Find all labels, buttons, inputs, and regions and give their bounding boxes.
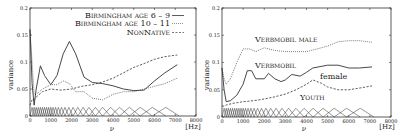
right-xlabel: ν <box>302 125 307 133</box>
y-tick-label: 0.1 <box>212 59 220 65</box>
label-verbmobil: Verbmobil <box>254 61 296 70</box>
filterbank-triangles <box>222 108 374 117</box>
x-tick-label: 7000 <box>169 117 182 123</box>
x-tick-label: 6000 <box>342 118 355 124</box>
y-tick-label: 0.1 <box>20 59 28 65</box>
x-tick-label: 5000 <box>321 118 334 124</box>
x-tick-label: 2000 <box>65 117 78 123</box>
y-tick-label: 0.05 <box>17 86 28 92</box>
right-plot: 01000200030004000500060007000800000.050.… <box>209 5 398 124</box>
x-tick-label: 3000 <box>86 117 99 123</box>
x-tick-label: 4000 <box>300 118 313 124</box>
series-line <box>222 80 372 106</box>
right-xunit: [Hz] <box>379 123 395 131</box>
series-line <box>222 65 372 102</box>
x-tick-label: 1000 <box>44 117 57 123</box>
left-xlabel: ν <box>110 125 115 133</box>
y-tick-label: 0.2 <box>20 5 28 11</box>
left-ylabel: variance <box>7 60 15 91</box>
legend-nonnative: NonNative <box>127 28 170 37</box>
y-tick-label: 0.15 <box>209 32 220 38</box>
y-tick-label: 0.2 <box>212 5 220 11</box>
x-tick-label: 6000 <box>148 117 161 123</box>
series-line <box>222 41 372 85</box>
label-verbmobil-male: Verbmobil male <box>254 35 317 44</box>
y-tick-label: 0.15 <box>17 32 28 38</box>
x-tick-label: 5000 <box>127 117 140 123</box>
x-tick-label: 1000 <box>237 118 250 124</box>
x-tick-label: 0 <box>220 118 223 124</box>
y-tick-label: 0 <box>217 114 220 120</box>
x-tick-label: 3000 <box>279 118 292 124</box>
left-legend: Birmingham age 6 – 9 Birmingham age 10 –… <box>75 11 184 37</box>
x-tick-label: 4000 <box>107 117 120 123</box>
x-tick-label: 2000 <box>258 118 271 124</box>
filterbank-triangles <box>30 107 179 116</box>
legend-birmingham-10-11: Birmingham age 10 – 11 <box>75 19 170 28</box>
y-tick-label: 0 <box>25 113 28 119</box>
left-xunit: [Hz] <box>185 123 201 131</box>
label-female: female <box>320 72 348 81</box>
series-line <box>30 30 177 106</box>
x-tick-label: 0 <box>28 117 31 123</box>
label-youth: Youth <box>299 93 325 102</box>
x-tick-label: 7000 <box>364 118 377 124</box>
series-line <box>30 30 177 100</box>
variance-charts: 01000200030004000500060007000800000.050.… <box>0 0 409 139</box>
right-ylabel: variance <box>203 60 211 91</box>
